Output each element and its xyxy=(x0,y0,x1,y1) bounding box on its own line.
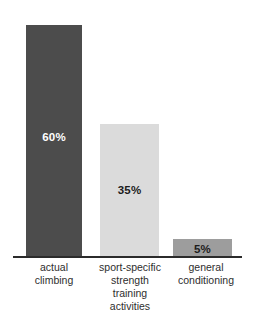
tick-label-line: sport-specific xyxy=(88,261,172,274)
tick-label-line: general xyxy=(163,261,249,274)
tick-label-line: climbing xyxy=(12,274,96,287)
tick-label-line: activities xyxy=(88,300,172,313)
bar-sport-specific-strength-training-activities[interactable]: 35% xyxy=(100,124,159,257)
bar-value-label-general-conditioning: 5% xyxy=(173,243,232,255)
bar-value-label-actual-climbing: 60% xyxy=(26,131,82,143)
tick-label-sport-specific: sport-specific strength training activit… xyxy=(88,261,172,313)
bar-general-conditioning[interactable]: 5% xyxy=(173,239,232,257)
tick-label-line: actual xyxy=(12,261,96,274)
bar-value-label-sport-specific: 35% xyxy=(100,184,159,196)
x-axis-baseline xyxy=(13,256,242,258)
tick-label-line: strength xyxy=(88,274,172,287)
tick-label-actual-climbing: actual climbing xyxy=(12,261,96,287)
tick-label-general-conditioning: general conditioning xyxy=(163,261,249,287)
plot-area: 60% 35% 5% xyxy=(0,0,258,258)
bar-chart: 60% 35% 5% actual climbing sport-specifi… xyxy=(0,0,258,324)
bar-actual-climbing[interactable]: 60% xyxy=(26,25,82,257)
tick-label-line: training xyxy=(88,287,172,300)
x-axis-tick-labels: actual climbing sport-specific strength … xyxy=(0,261,258,324)
tick-label-line: conditioning xyxy=(163,274,249,287)
